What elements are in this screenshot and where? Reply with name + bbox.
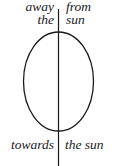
label-the-top: the — [38, 13, 55, 27]
label-the-sun-bottom: the sun — [65, 138, 104, 152]
label-sun-top: sun — [66, 13, 85, 27]
label-towards: towards — [11, 138, 54, 152]
